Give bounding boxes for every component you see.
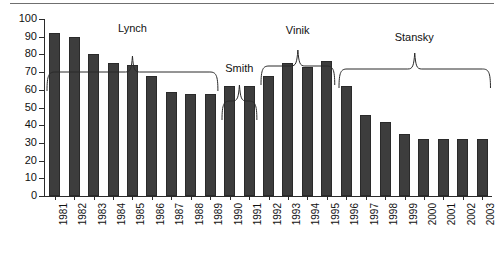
bar bbox=[205, 94, 216, 196]
y-axis-tick-label: 40 bbox=[3, 119, 37, 130]
coach-bracket bbox=[261, 50, 335, 89]
x-axis-tick-label: 1988 bbox=[195, 203, 205, 225]
x-axis-tick-label: 1986 bbox=[156, 203, 166, 225]
x-axis-tick bbox=[366, 196, 367, 200]
x-axis-tick bbox=[463, 196, 464, 200]
y-axis-tick-label: 80 bbox=[3, 48, 37, 59]
x-axis-tick bbox=[94, 196, 95, 200]
y-axis-tick-label: 70 bbox=[3, 66, 37, 77]
x-axis-tick bbox=[210, 196, 211, 200]
y-axis-tick-label: 0 bbox=[3, 190, 37, 201]
x-axis-tick bbox=[230, 196, 231, 200]
x-axis-tick bbox=[269, 196, 270, 200]
y-axis-tick-label: 30 bbox=[3, 137, 37, 148]
x-axis-tick bbox=[327, 196, 328, 200]
bar-chart-figure: 1009080706050403020100 19811982198319841… bbox=[0, 0, 498, 256]
bar bbox=[380, 122, 391, 196]
x-axis-tick bbox=[171, 196, 172, 200]
x-axis-tick-label: 2001 bbox=[447, 203, 457, 225]
coach-bracket bbox=[222, 85, 257, 124]
x-axis-tick bbox=[482, 196, 483, 200]
bar bbox=[341, 86, 352, 196]
x-axis-tick bbox=[152, 196, 153, 200]
x-axis-tick-label: 1987 bbox=[175, 203, 185, 225]
bar bbox=[438, 139, 449, 196]
y-axis-tick-label: 50 bbox=[3, 102, 37, 113]
coach-label-stansky: Stansky bbox=[374, 31, 454, 43]
x-axis-tick-label: 1994 bbox=[311, 203, 321, 225]
y-axis-tick-label: 100 bbox=[3, 13, 37, 24]
x-axis-tick-label: 1989 bbox=[214, 203, 224, 225]
x-axis-tick-label: 1999 bbox=[409, 203, 419, 225]
x-axis-tick-label: 1992 bbox=[273, 203, 283, 225]
x-axis-tick-label: 1981 bbox=[59, 203, 69, 225]
y-axis-tick-label: 20 bbox=[3, 155, 37, 166]
x-axis-tick-label: 1982 bbox=[78, 203, 88, 225]
x-axis-tick bbox=[288, 196, 289, 200]
coach-bracket bbox=[47, 56, 218, 95]
y-axis-labels: 1009080706050403020100 bbox=[0, 0, 37, 256]
coach-label-lynch: Lynch bbox=[92, 22, 172, 34]
bars-layer bbox=[45, 19, 492, 196]
bar bbox=[185, 94, 196, 196]
y-axis-tick-label: 90 bbox=[3, 31, 37, 42]
bar bbox=[418, 139, 429, 196]
x-axis-tick-label: 1984 bbox=[117, 203, 127, 225]
x-axis-tick bbox=[132, 196, 133, 200]
x-axis-tick bbox=[385, 196, 386, 200]
x-axis-tick bbox=[191, 196, 192, 200]
x-axis-tick-label: 1996 bbox=[350, 203, 360, 225]
y-axis-tick-label: 10 bbox=[3, 172, 37, 183]
x-axis-tick bbox=[405, 196, 406, 200]
bar bbox=[457, 139, 468, 196]
bar bbox=[360, 115, 371, 196]
bar bbox=[263, 76, 274, 196]
y-axis-tick-label: 60 bbox=[3, 84, 37, 95]
x-axis-tick-label: 2003 bbox=[486, 203, 496, 225]
x-axis-tick-label: 1991 bbox=[253, 203, 263, 225]
x-axis-tick bbox=[74, 196, 75, 200]
x-axis-tick-label: 1998 bbox=[389, 203, 399, 225]
coach-bracket bbox=[339, 53, 490, 92]
x-axis-tick bbox=[307, 196, 308, 200]
x-axis-tick-label: 1985 bbox=[136, 203, 146, 225]
x-axis-tick bbox=[346, 196, 347, 200]
top-divider-rule bbox=[10, 3, 494, 4]
bar bbox=[166, 92, 177, 196]
x-axis-tick bbox=[55, 196, 56, 200]
bar bbox=[477, 139, 488, 196]
x-axis-tick-label: 1995 bbox=[331, 203, 341, 225]
x-axis-tick-label: 2002 bbox=[467, 203, 477, 225]
x-axis-tick-label: 1990 bbox=[234, 203, 244, 225]
x-axis-tick bbox=[113, 196, 114, 200]
x-axis-tick bbox=[424, 196, 425, 200]
x-axis-tick bbox=[443, 196, 444, 200]
bar bbox=[399, 134, 410, 196]
x-axis-tick-label: 1983 bbox=[98, 203, 108, 225]
coach-label-vinik: Vinik bbox=[258, 24, 338, 36]
x-axis-tick-label: 1993 bbox=[292, 203, 302, 225]
x-axis-tick-label: 2000 bbox=[428, 203, 438, 225]
x-axis-tick bbox=[249, 196, 250, 200]
x-axis-tick-label: 1997 bbox=[370, 203, 380, 225]
